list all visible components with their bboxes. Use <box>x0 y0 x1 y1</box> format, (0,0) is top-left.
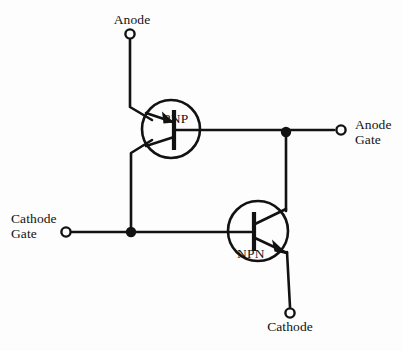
junction-dot-cathode-gate-node <box>126 227 136 237</box>
junction-dot-anode-gate-node <box>281 127 291 137</box>
circuit-schematic-canvas <box>0 0 402 351</box>
terminal-label-cathode-gate: Cathode Gate <box>11 212 57 241</box>
terminal-label-cathode: Cathode <box>262 320 318 335</box>
wire-pnp-collector-to-cathode-gate-node <box>131 140 152 232</box>
wire-anode-to-pnp-emitter <box>130 40 152 120</box>
device-label-npn: NPN <box>237 247 265 261</box>
terminal-anode[interactable] <box>125 29 134 38</box>
terminal-cathode-gate[interactable] <box>61 227 70 236</box>
wire-npn-emitter-to-cathode <box>287 252 290 307</box>
device-label-pnp: PNP <box>163 112 188 126</box>
npn-collector-lead <box>255 209 286 224</box>
terminal-anode-gate[interactable] <box>336 125 345 134</box>
terminal-label-anode-gate: Anode Gate <box>355 118 392 147</box>
terminal-cathode[interactable] <box>285 308 294 317</box>
circuit-diagram: Anode Anode Gate Cathode Gate Cathode PN… <box>0 0 402 351</box>
terminal-label-anode: Anode <box>107 13 157 28</box>
